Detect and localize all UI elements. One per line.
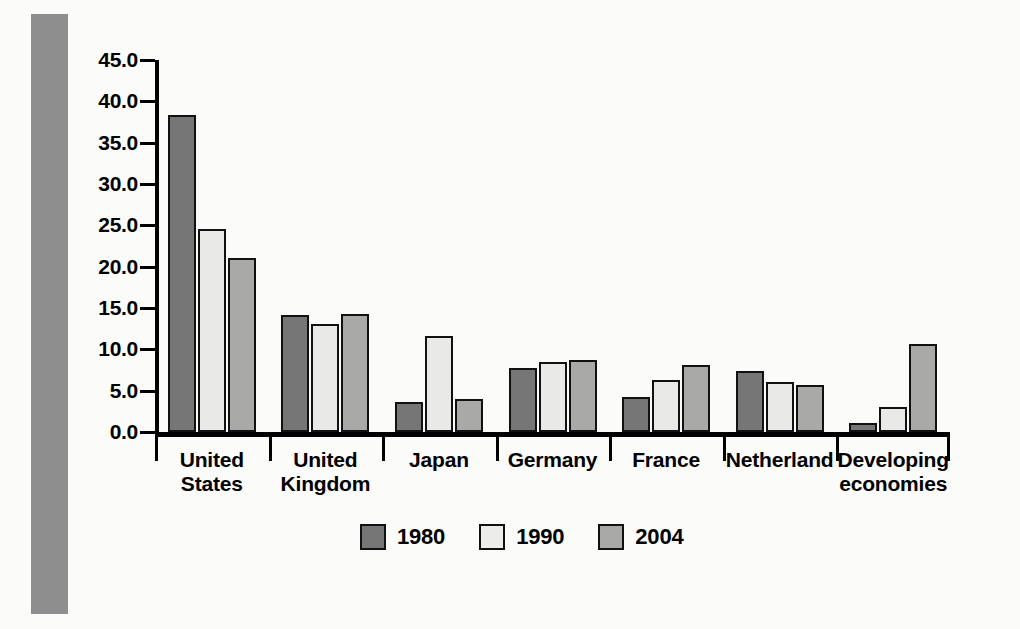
y-axis-tick-label: 15.0 — [60, 297, 138, 318]
x-axis-line — [155, 432, 950, 437]
y-axis-tick-label: 30.0 — [60, 173, 138, 194]
y-axis-tick-label: 5.0 — [60, 380, 138, 401]
y-axis-tick-label: 35.0 — [60, 132, 138, 153]
y-axis-tick-label: 0.0 — [60, 421, 138, 442]
x-axis-category-label-line: States — [147, 472, 277, 496]
legend-label-2004: 2004 — [635, 524, 683, 550]
legend-label-1990: 1990 — [516, 524, 564, 550]
x-axis-category-label-line: Germany — [488, 448, 618, 472]
bar-2004-developing-economies — [909, 344, 937, 432]
y-axis-tick-mark — [140, 266, 155, 269]
y-axis-tick-mark — [140, 390, 155, 393]
x-axis-category-label: Developingeconomies — [828, 448, 958, 495]
bar-1990-germany — [539, 362, 567, 432]
y-axis-tick-mark — [140, 307, 155, 310]
y-axis-tick-mark — [140, 348, 155, 351]
bar-1990-united-kingdom — [311, 324, 339, 432]
legend-swatch-1990 — [479, 524, 505, 550]
x-axis-category-label-line: Japan — [374, 448, 504, 472]
x-axis-category-label: Japan — [374, 448, 504, 472]
y-axis-tick-label: 25.0 — [60, 214, 138, 235]
bar-2004-united-states — [228, 258, 256, 432]
x-axis-category-label-line: France — [601, 448, 731, 472]
bar-1980-united-kingdom — [281, 315, 309, 432]
bar-1990-france — [652, 380, 680, 432]
y-axis-tick-label: 45.0 — [60, 49, 138, 70]
y-axis-tick-mark — [140, 59, 155, 62]
x-axis-category-label-line: United — [147, 448, 277, 472]
bar-1980-germany — [509, 368, 537, 432]
bar-1980-france — [622, 397, 650, 432]
y-axis-tick-mark — [140, 224, 155, 227]
x-axis-category-label-line: Developing — [828, 448, 958, 472]
x-axis-category-label: UnitedKingdom — [261, 448, 391, 495]
bar-1990-developing-economies — [879, 407, 907, 432]
y-axis-tick-label: 10.0 — [60, 338, 138, 359]
x-axis-category-label-line: Kingdom — [261, 472, 391, 496]
bar-1990-united-states — [198, 229, 226, 432]
bar-2004-japan — [455, 399, 483, 432]
y-axis-line — [155, 60, 159, 432]
x-axis-category-label: UnitedStates — [147, 448, 277, 495]
chart-legend: 198019902004 — [360, 524, 683, 550]
legend-item-1980[interactable]: 1980 — [360, 524, 445, 550]
bar-1980-netherland — [736, 371, 764, 432]
x-axis-category-label: Netherland — [715, 448, 845, 472]
legend-swatch-2004 — [598, 524, 624, 550]
legend-item-2004[interactable]: 2004 — [598, 524, 683, 550]
y-axis-tick-mark — [140, 431, 155, 434]
chart-page: 45.040.035.030.025.020.015.010.05.00.0 U… — [0, 0, 1020, 629]
y-axis-tick-label: 40.0 — [60, 90, 138, 111]
x-axis-category-label-line: economies — [828, 472, 958, 496]
plot-area: 45.040.035.030.025.020.015.010.05.00.0 — [155, 60, 950, 432]
bar-1990-japan — [425, 336, 453, 432]
bar-1980-united-states — [168, 115, 196, 432]
bar-2004-france — [682, 365, 710, 432]
legend-swatch-1980 — [360, 524, 386, 550]
bar-1980-japan — [395, 402, 423, 432]
x-axis-category-label: France — [601, 448, 731, 472]
y-axis-tick-mark — [140, 100, 155, 103]
x-axis-category-label-line: Netherland — [715, 448, 845, 472]
y-axis-tick-mark — [140, 183, 155, 186]
legend-label-1980: 1980 — [397, 524, 445, 550]
legend-item-1990[interactable]: 1990 — [479, 524, 564, 550]
y-axis-tick-label: 20.0 — [60, 256, 138, 277]
y-axis-tick-mark — [140, 142, 155, 145]
bar-1980-developing-economies — [849, 423, 877, 432]
bar-1990-netherland — [766, 382, 794, 432]
bar-2004-netherland — [796, 385, 824, 432]
bar-2004-united-kingdom — [341, 314, 369, 432]
bar-2004-germany — [569, 360, 597, 432]
x-axis-category-labels: UnitedStatesUnitedKingdomJapanGermanyFra… — [155, 448, 950, 508]
x-axis-category-label: Germany — [488, 448, 618, 472]
y-axis-tick-labels: 45.040.035.030.025.020.015.010.05.00.0 — [60, 60, 138, 432]
x-axis-category-label-line: United — [261, 448, 391, 472]
